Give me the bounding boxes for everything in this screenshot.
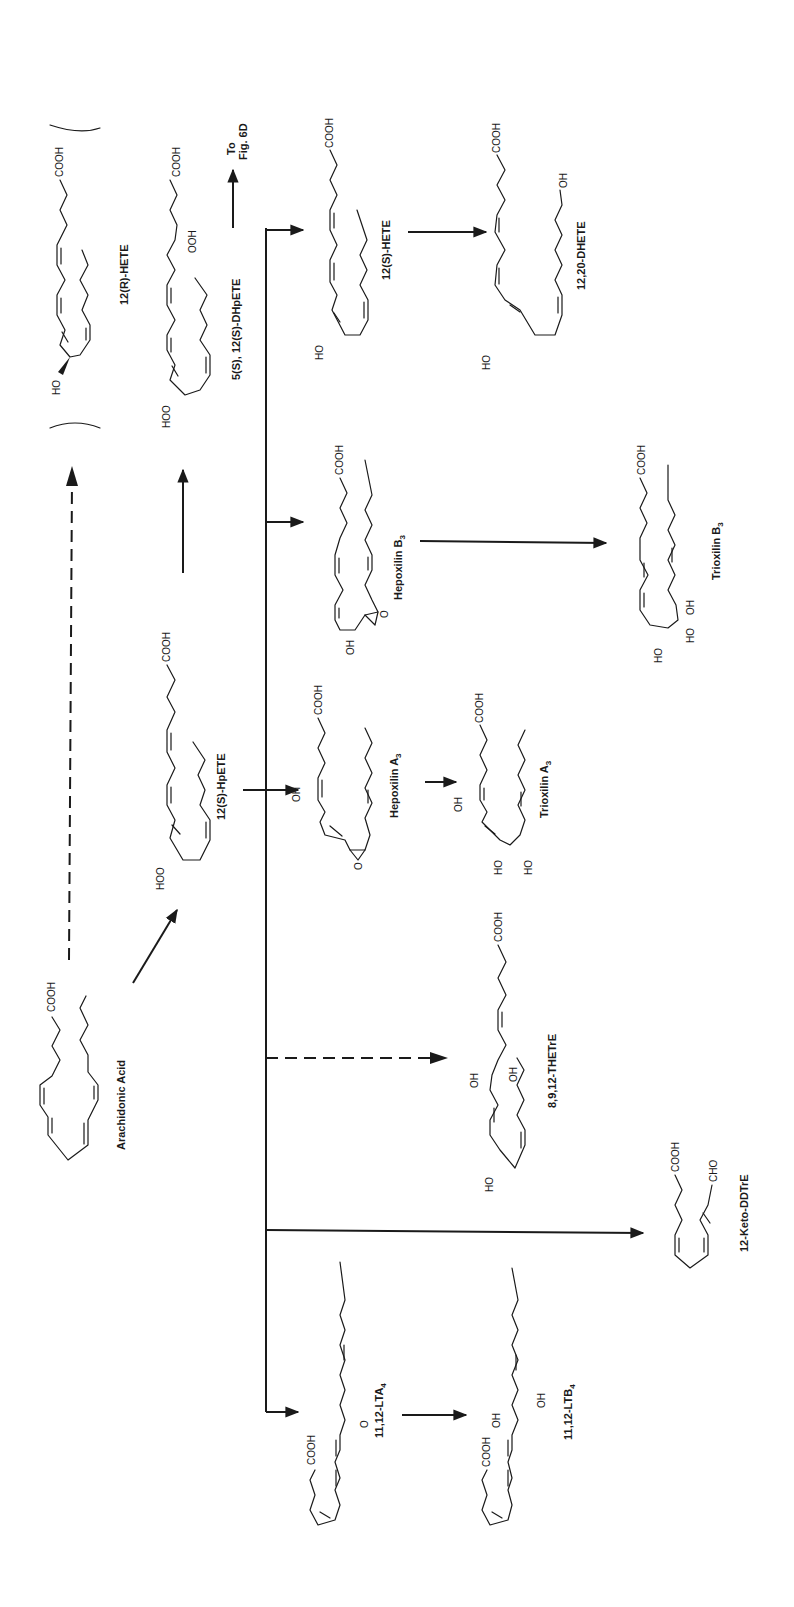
compound-hepoxilin-b3: COOH OH O Hepoxilin B3	[334, 445, 407, 655]
ho-group: HO	[484, 1177, 495, 1192]
label-hepoxilin-b3: Hepoxilin B3	[392, 534, 407, 600]
compound-12r-hete: COOH HO 12(R)-HETE	[50, 125, 130, 428]
label-dhete: 12,20-DHETE	[575, 222, 587, 290]
label-trioxilin-a3: Trioxilin A3	[538, 760, 553, 818]
compound-lta4: COOH O 11,12-LTA4	[306, 1262, 388, 1525]
hoo-group: HOO	[155, 867, 166, 890]
compound-keto-ddtre: COOH CHO 12-Keto-DDTrE	[670, 1142, 750, 1268]
oh-group: OH	[345, 640, 356, 655]
epoxide-o: O	[353, 862, 364, 870]
compound-dhete: COOH OH HO 12,20-DHETE	[481, 123, 587, 370]
hoo-group: HOO	[161, 405, 172, 428]
cooh-group: COOH	[493, 912, 504, 942]
cooh-group: COOH	[54, 147, 65, 177]
compound-arachidonic-acid: COOH Arachidonic Acid	[40, 982, 127, 1160]
arrow-hxb3-to-trxb3	[420, 541, 606, 543]
cooh-group: COOH	[46, 982, 57, 1012]
cooh-group: COOH	[670, 1142, 681, 1172]
compound-trioxilin-a3: COOH OH HO HO Trioxilin A3	[453, 693, 553, 875]
label-to-fig-line1: To	[225, 142, 237, 155]
pathway-arrows	[66, 170, 643, 1415]
compound-hepoxilin-a3: COOH OH O Hepoxilin A3	[291, 685, 403, 870]
oh-group-1: OH	[491, 1413, 502, 1428]
ho-group-2: HO	[685, 628, 696, 643]
label-trioxilin-b3: Trioxilin B3	[710, 522, 725, 580]
epoxide-o: O	[379, 610, 390, 618]
arrowhead	[430, 1052, 448, 1064]
ho-group-1: HO	[493, 860, 504, 875]
oh-group-1: OH	[469, 1073, 480, 1088]
ho-group: HO	[51, 380, 62, 395]
oh-group-2: OH	[536, 1393, 547, 1408]
ooh-group: OOH	[187, 230, 198, 253]
label-to-fig-line2: Fig. 6D	[237, 123, 249, 160]
label-arachidonic-acid: Arachidonic Acid	[115, 1060, 127, 1150]
label-lta4: 11,12-LTA4	[373, 1383, 388, 1438]
cooh-group: COOH	[306, 1435, 317, 1465]
oh-group: OH	[291, 787, 302, 802]
ho-group-1: HO	[653, 648, 664, 663]
compound-12s-hpete: COOH HOO 12(S)-HpETE	[155, 632, 227, 890]
oh-group: OH	[453, 797, 464, 812]
label-dhpete: 5(S), 12(S)-DHpETE	[230, 279, 242, 380]
compound-thetre: COOH OH OH HO 8,9,12-THETrE	[469, 912, 558, 1192]
cooh-group: COOH	[334, 445, 345, 475]
ho-group-2: HO	[523, 860, 534, 875]
compound-dhpete: COOH OOH HOO 5(S), 12(S)-DHpETE To Fig. …	[161, 123, 249, 428]
compound-ltb4: COOH OH OH 11,12-LTB4	[481, 1268, 577, 1525]
cooh-group: COOH	[481, 1437, 492, 1467]
epoxide-o: O	[359, 1420, 370, 1428]
cooh-group: COOH	[636, 445, 647, 475]
label-hepoxilin-a3: Hepoxilin A3	[388, 753, 403, 818]
label-thetre: 8,9,12-THETrE	[546, 1034, 558, 1108]
label-12r-hete: 12(R)-HETE	[118, 244, 130, 305]
ho-group: HO	[314, 345, 325, 360]
label-12s-hete: 12(S)-HETE	[380, 220, 392, 280]
label-12s-hpete: 12(S)-HpETE	[215, 753, 227, 820]
arrow-to-keto-ddtre	[266, 1230, 643, 1233]
ho-group: HO	[481, 355, 492, 370]
cooh-group: COOH	[324, 118, 335, 148]
cho-group: CHO	[708, 1160, 719, 1182]
pathway-diagram: COOH Arachidonic Acid COOH HOO 12(S)-HpE…	[0, 0, 794, 1607]
oh-group: OH	[685, 600, 696, 615]
arrowhead	[66, 466, 78, 486]
label-keto-ddtre: 12-Keto-DDTrE	[738, 1174, 750, 1252]
oh-group: OH	[558, 173, 569, 188]
cooh-group: COOH	[161, 632, 172, 662]
arrow-aa-to-12r-hete	[69, 480, 72, 960]
cooh-group: COOH	[171, 147, 182, 177]
arrow-aa-to-hpete	[133, 910, 177, 983]
cooh-group: COOH	[474, 693, 485, 723]
compound-12s-hete: COOH HO 12(S)-HETE	[314, 118, 392, 360]
compound-trioxilin-b3: COOH HO HO OH Trioxilin B3	[636, 445, 725, 663]
cooh-group: COOH	[491, 123, 502, 153]
label-ltb4: 11,12-LTB4	[562, 1384, 577, 1440]
cooh-group: COOH	[313, 685, 324, 715]
oh-group-2: OH	[508, 1067, 519, 1082]
